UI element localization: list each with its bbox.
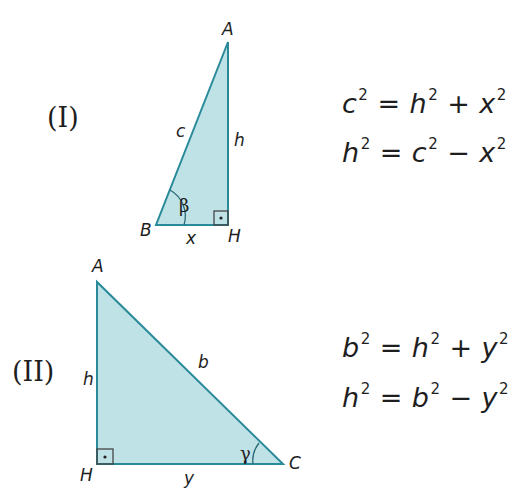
exponent: 2 (361, 135, 371, 153)
eq-term: c (342, 88, 357, 119)
equation-2b: h2=b2−y2 (342, 382, 509, 413)
exponent: 2 (499, 330, 509, 348)
exponent: 2 (428, 86, 438, 104)
eq-operator: = (380, 382, 403, 413)
side-c-label: c (176, 121, 186, 141)
exponent: 2 (430, 330, 440, 348)
angle-beta-label: β (179, 195, 189, 216)
eq-term: h (412, 332, 430, 363)
side-b-label: b (198, 352, 209, 372)
equation-2a: b2=h2+y2 (342, 332, 509, 363)
vertex-c-label: C (289, 453, 301, 473)
exponent: 2 (428, 135, 438, 153)
eq-term: b (342, 332, 360, 363)
exponent: 2 (497, 135, 507, 153)
eq-term: h (342, 382, 360, 413)
side-h-label: h (234, 130, 245, 150)
equation-1b: h2=c2−x2 (342, 137, 507, 168)
vertex-a-label: A (221, 19, 234, 39)
eq-term: h (342, 137, 360, 168)
exponent: 2 (430, 380, 440, 398)
eq-operator: + (449, 332, 472, 363)
figure-2: (II) A H C b h y γ (12, 256, 301, 488)
exponent: 2 (499, 380, 509, 398)
figure-1-label: (I) (47, 102, 79, 133)
figure-2-label: (II) (12, 356, 54, 387)
eq-operator: = (380, 332, 403, 363)
diagram-canvas: (I) A B H c h x β (II) A H C b h y γ (0, 0, 515, 490)
eq-term: x (479, 88, 495, 119)
vertex-h-label: H (80, 465, 93, 485)
exponent: 2 (361, 380, 371, 398)
figure-1: (I) A B H c h x β (47, 19, 245, 248)
right-angle-dot (103, 455, 106, 458)
triangle-abh (156, 42, 228, 225)
vertex-h-label: H (228, 226, 241, 246)
vertex-a-label: A (91, 256, 104, 276)
exponent: 2 (358, 86, 368, 104)
triangle-ahc (97, 282, 283, 464)
eq-term: y (482, 332, 498, 363)
eq-term: c (412, 137, 427, 168)
eq-term: x (479, 137, 495, 168)
side-x-label: x (185, 228, 197, 248)
side-y-label: y (183, 468, 195, 488)
angle-gamma-label: γ (240, 443, 251, 464)
vertex-b-label: B (140, 220, 152, 240)
eq-operator: + (447, 88, 470, 119)
exponent: 2 (361, 330, 371, 348)
eq-operator: = (380, 137, 403, 168)
equation-1a: c2=h2+x2 (342, 88, 507, 119)
exponent: 2 (497, 86, 507, 104)
eq-operator: − (447, 137, 470, 168)
eq-operator: = (377, 88, 400, 119)
eq-term: y (482, 382, 498, 413)
right-angle-dot (219, 216, 222, 219)
side-h-label: h (83, 369, 94, 389)
eq-operator: − (449, 382, 472, 413)
eq-term: b (412, 382, 430, 413)
eq-term: h (410, 88, 428, 119)
